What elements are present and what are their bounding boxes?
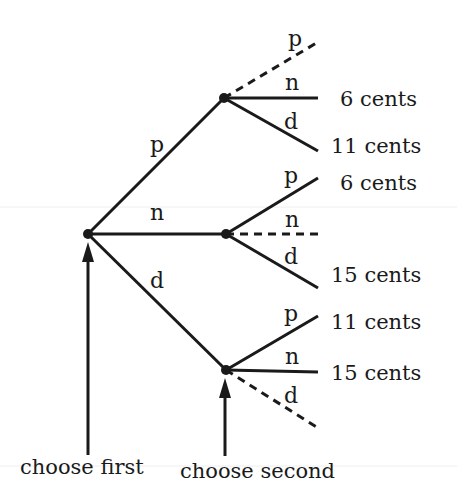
edge-label-second-d: d	[284, 244, 298, 269]
outcome-label: 15 cents	[331, 263, 421, 287]
node-dot-after-p	[219, 93, 229, 103]
outcome-label: 15 cents	[331, 361, 421, 385]
outcome-label: 6 cents	[340, 171, 417, 195]
edge-label-second-d: d	[284, 109, 298, 134]
edge-label-first-d: d	[150, 268, 164, 293]
second-choice-edge-after-p-d	[224, 98, 318, 151]
second-choice-edge-after-d-d	[226, 370, 318, 428]
outcome-label: 6 cents	[340, 87, 417, 111]
coin-choice-tree-diagram: pndpndpndpnd 6 cents11 cents6 cents15 ce…	[0, 0, 457, 503]
second-choice-edge-after-n-d	[226, 234, 318, 288]
arrow-up-icon	[219, 378, 231, 398]
edge-label-second-n: n	[285, 70, 299, 95]
second-choice-edge-after-d-p	[226, 316, 318, 370]
caption-choose-first: choose first	[20, 455, 144, 479]
caption-choose-second: choose second	[180, 459, 335, 483]
outcome-labels: 6 cents11 cents6 cents15 cents11 cents15…	[331, 87, 421, 385]
edge-label-first-n: n	[150, 200, 164, 225]
edge-labels: pndpndpndpnd	[150, 26, 302, 408]
edge-label-second-p: p	[288, 26, 302, 51]
edge-label-second-n: n	[285, 344, 299, 369]
node-dot-after-d	[221, 365, 231, 375]
arrow-up-icon	[82, 242, 94, 262]
edge-label-second-p: p	[284, 163, 298, 188]
first-choice-edge-d	[88, 234, 226, 370]
second-choice-edge-after-p-p	[224, 42, 318, 98]
node-dot-root	[83, 229, 93, 239]
edge-label-first-p: p	[150, 132, 164, 157]
edge-label-second-n: n	[285, 207, 299, 232]
second-choice-edge-after-n-p	[226, 178, 318, 234]
node-dot-after-n	[221, 229, 231, 239]
outcome-label: 11 cents	[331, 134, 421, 158]
tree-edges	[88, 42, 318, 428]
second-choice-edge-after-d-n	[226, 370, 318, 372]
outcome-label: 11 cents	[331, 310, 421, 334]
edge-label-second-d: d	[284, 383, 298, 408]
edge-label-second-p: p	[284, 301, 298, 326]
